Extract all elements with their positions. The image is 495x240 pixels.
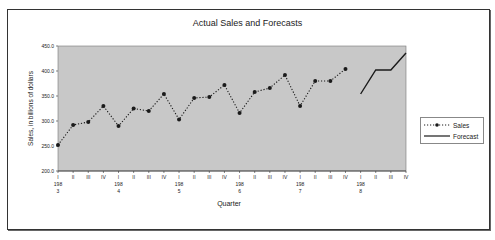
x-tick-label: IV bbox=[222, 174, 227, 180]
year-label: 198 bbox=[356, 181, 365, 187]
x-tick-label: III bbox=[389, 174, 393, 180]
x-tick-label: I bbox=[299, 174, 300, 180]
sales-marker bbox=[343, 67, 347, 71]
sales-marker bbox=[313, 79, 317, 83]
x-tick-label: IV bbox=[162, 174, 167, 180]
year-label: 3 bbox=[57, 188, 60, 194]
sales-marker bbox=[192, 96, 196, 100]
sales-marker bbox=[101, 104, 105, 108]
y-axis-title: Sales, in billions of dollars bbox=[27, 70, 34, 146]
y-tick-label: 300.0 bbox=[41, 118, 54, 124]
x-tick-label: I bbox=[118, 174, 119, 180]
legend-label-sales: Sales bbox=[453, 122, 469, 129]
legend-item-forecast: Forecast bbox=[424, 131, 478, 141]
x-axis-title: Quarter bbox=[217, 200, 241, 208]
sales-marker bbox=[71, 123, 75, 127]
plot-area bbox=[58, 46, 406, 171]
x-tick-label: IV bbox=[343, 174, 348, 180]
dotted-line-marker-icon bbox=[424, 122, 450, 128]
y-tick-label: 250.0 bbox=[41, 143, 54, 149]
sales-marker bbox=[328, 79, 332, 83]
y-tick-label: 350.0 bbox=[41, 93, 54, 99]
x-tick-label: II bbox=[193, 174, 196, 180]
legend-label-forecast: Forecast bbox=[453, 133, 478, 140]
x-tick-label: II bbox=[374, 174, 377, 180]
sales-marker bbox=[238, 111, 242, 115]
sales-marker bbox=[56, 143, 60, 147]
year-label: 8 bbox=[359, 188, 362, 194]
sales-marker bbox=[86, 120, 90, 124]
sales-marker bbox=[117, 124, 121, 128]
year-label: 198 bbox=[235, 181, 244, 187]
y-tick-label: 200.0 bbox=[41, 168, 54, 174]
legend-item-sales: Sales bbox=[424, 120, 469, 130]
y-tick-label: 400.0 bbox=[41, 68, 54, 74]
x-tick-label: I bbox=[239, 174, 240, 180]
year-label: 4 bbox=[117, 188, 120, 194]
sales-marker bbox=[177, 118, 181, 122]
year-label: 198 bbox=[175, 181, 184, 187]
sales-marker bbox=[162, 92, 166, 96]
sales-marker bbox=[298, 104, 302, 108]
x-tick-label: II bbox=[253, 174, 256, 180]
sales-marker bbox=[268, 86, 272, 90]
x-tick-label: III bbox=[207, 174, 211, 180]
sales-marker bbox=[222, 83, 226, 87]
x-tick-label: IV bbox=[404, 174, 409, 180]
sales-marker bbox=[207, 95, 211, 99]
x-tick-label: I bbox=[360, 174, 361, 180]
year-label: 198 bbox=[114, 181, 123, 187]
sales-marker bbox=[283, 73, 287, 77]
sales-marker bbox=[147, 109, 151, 113]
legend: Sales Forecast bbox=[420, 117, 484, 144]
x-tick-label: IV bbox=[283, 174, 288, 180]
y-tick-label: 450.0 bbox=[41, 43, 54, 49]
sales-marker bbox=[132, 107, 136, 111]
solid-line-icon bbox=[424, 133, 450, 139]
x-tick-label: III bbox=[268, 174, 272, 180]
year-label: 198 bbox=[54, 181, 63, 187]
x-tick-label: IV bbox=[101, 174, 106, 180]
x-tick-label: II bbox=[314, 174, 317, 180]
year-label: 5 bbox=[178, 188, 181, 194]
year-label: 198 bbox=[296, 181, 305, 187]
x-tick-label: II bbox=[72, 174, 75, 180]
x-tick-label: III bbox=[86, 174, 90, 180]
x-tick-label: I bbox=[57, 174, 58, 180]
year-label: 7 bbox=[299, 188, 302, 194]
year-label: 6 bbox=[238, 188, 241, 194]
sales-marker bbox=[253, 90, 257, 94]
x-tick-label: III bbox=[328, 174, 332, 180]
x-tick-label: III bbox=[147, 174, 151, 180]
x-tick-label: II bbox=[132, 174, 135, 180]
x-tick-label: I bbox=[178, 174, 179, 180]
